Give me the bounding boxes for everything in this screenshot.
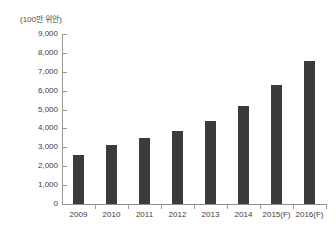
clipped-header-text	[6, 0, 126, 7]
x-axis-separator	[194, 204, 195, 209]
y-axis-tick-label: 9,000	[38, 29, 58, 38]
y-axis-tick-label: 0	[54, 199, 58, 208]
x-axis-tick-label: 2015(F)	[260, 209, 293, 220]
bar	[238, 106, 249, 204]
x-axis-separator	[128, 204, 129, 209]
y-axis-tick-label: 8,000	[38, 48, 58, 57]
y-axis-tick-label: 3,000	[38, 142, 58, 151]
y-axis-unit-label: (100만 위안)	[20, 15, 62, 25]
x-axis-tick-label: 2010	[95, 209, 128, 220]
y-axis-tick-label: 2,000	[38, 161, 58, 170]
x-axis-separator	[260, 204, 261, 209]
x-axis-tick-label: 2014	[227, 209, 260, 220]
bar	[139, 138, 150, 204]
x-axis-separator	[95, 204, 96, 209]
y-axis-tick-label: 6,000	[38, 86, 58, 95]
bar	[271, 85, 282, 204]
x-axis-labels: 2009201020112012201320142015(F)2016(F)	[62, 209, 326, 223]
x-axis-separator	[293, 204, 294, 209]
bars-layer	[62, 34, 326, 204]
y-axis-tick-label: 4,000	[38, 123, 58, 132]
bar	[205, 121, 216, 204]
bar	[73, 155, 84, 204]
bar-chart-figure: (100만 위안) 01,0002,0003,0004,0005,0006,00…	[0, 0, 336, 226]
bar	[172, 131, 183, 204]
x-axis-tick-label: 2012	[161, 209, 194, 220]
x-axis-separator	[326, 204, 327, 209]
x-axis-tick-label: 2009	[62, 209, 95, 220]
x-axis-tick-label: 2013	[194, 209, 227, 220]
y-axis-tick-label: 5,000	[38, 105, 58, 114]
x-axis-separator	[161, 204, 162, 209]
x-axis-tick-label: 2011	[128, 209, 161, 220]
bar	[304, 61, 315, 204]
y-axis-tick: 0	[62, 204, 67, 205]
x-axis-separator	[227, 204, 228, 209]
y-axis-tick-mark	[62, 204, 67, 205]
bar	[106, 145, 117, 204]
x-axis-tick-label: 2016(F)	[293, 209, 326, 220]
y-axis-tick-label: 7,000	[38, 67, 58, 76]
y-axis-tick-label: 1,000	[38, 180, 58, 189]
